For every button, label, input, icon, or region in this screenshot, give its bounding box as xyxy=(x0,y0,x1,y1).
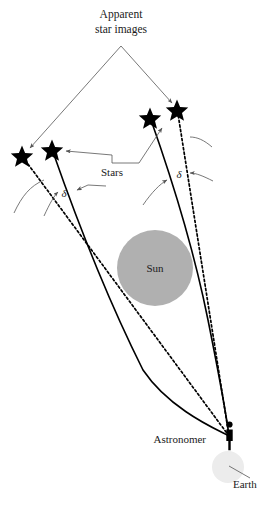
label-astronomer: Astronomer xyxy=(153,433,206,445)
label-earth: Earth xyxy=(233,478,257,490)
true-star-left xyxy=(41,140,63,161)
angle-pointer-left-ray xyxy=(77,185,106,190)
pointer-apparent-left xyxy=(30,46,121,148)
apparent-star-right xyxy=(166,100,188,121)
angle-arc-right-inner xyxy=(143,180,167,205)
line-of-sight-left xyxy=(25,160,229,436)
label-delta-left: δ xyxy=(61,187,67,199)
angle-arc-left-outer xyxy=(14,180,44,213)
astronomer-figure xyxy=(226,421,232,450)
true-star-right xyxy=(139,108,161,129)
pointer-stars-right xyxy=(112,128,162,163)
angle-arc-right-outer xyxy=(190,137,212,147)
pointer-apparent-right xyxy=(121,46,172,103)
label-apparent-line1: Apparent xyxy=(100,8,144,21)
label-stars: Stars xyxy=(101,166,123,178)
angle-pointer-right-dotted xyxy=(190,173,213,181)
label-delta-right: δ xyxy=(176,168,182,180)
label-apparent-line2: star images xyxy=(95,23,148,36)
diagram-canvas: Apparent star images Stars Sun Astronome… xyxy=(0,0,264,506)
astronomy-diagram: Apparent star images Stars Sun Astronome… xyxy=(0,0,264,506)
label-sun: Sun xyxy=(146,262,164,274)
pointer-stars-left xyxy=(66,151,112,163)
apparent-star-left xyxy=(11,146,33,167)
